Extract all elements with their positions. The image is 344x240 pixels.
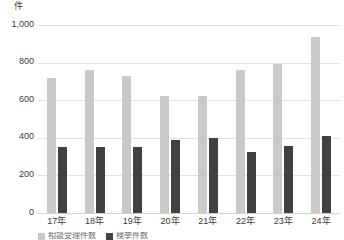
bar-series-1: [322, 136, 331, 213]
x-tick-label: 17年: [38, 215, 76, 229]
bar-series-0: [198, 96, 207, 214]
bar-series-1: [58, 147, 67, 213]
legend-swatch-icon: [38, 233, 45, 240]
y-tick-label: 600: [0, 95, 34, 104]
y-axis: 1,000 800 600 400 200 0: [0, 25, 34, 213]
bar-series-0: [236, 70, 245, 213]
bar-chart: 件 1,000 800 600 400 200 0: [0, 0, 344, 240]
bar-group: [189, 25, 227, 213]
bar-group: [151, 25, 189, 213]
plot-area: [38, 25, 340, 213]
legend-label: 相談受理件数: [48, 232, 96, 240]
legend-item: 相談受理件数: [38, 232, 96, 240]
x-axis: 17年 18年 19年 20年 21年 22年 23年 24年: [38, 215, 340, 229]
bar-series-0: [311, 37, 320, 213]
x-tick-label: 19年: [114, 215, 152, 229]
x-tick-label: 18年: [76, 215, 114, 229]
x-tick-label: 20年: [151, 215, 189, 229]
bar-series-1: [284, 146, 293, 213]
y-axis-unit-label: 件: [14, 1, 23, 11]
bar-group-container: [38, 25, 340, 213]
legend-swatch-icon: [106, 233, 113, 240]
bar-group: [76, 25, 114, 213]
x-tick-label: 24年: [302, 215, 340, 229]
bar-group: [302, 25, 340, 213]
y-tick-label: 400: [0, 132, 34, 141]
bar-group: [38, 25, 76, 213]
x-tick-label: 22年: [227, 215, 265, 229]
x-tick-label: 21年: [189, 215, 227, 229]
bar-series-1: [209, 138, 218, 213]
bar-series-1: [247, 152, 256, 213]
y-tick-label: 200: [0, 170, 34, 179]
bar-series-1: [96, 147, 105, 213]
bar-series-0: [273, 64, 282, 213]
chart-legend: 相談受理件数 検挙件数: [38, 232, 340, 240]
x-tick-label: 23年: [265, 215, 303, 229]
bar-group: [265, 25, 303, 213]
bar-series-0: [160, 96, 169, 214]
legend-label: 検挙件数: [116, 232, 148, 240]
y-tick-label: 800: [0, 57, 34, 66]
bar-series-0: [122, 76, 131, 213]
bar-group: [227, 25, 265, 213]
bar-series-0: [47, 78, 56, 213]
y-tick-label: 0: [0, 208, 34, 217]
gridline-0: [38, 213, 340, 214]
legend-item: 検挙件数: [106, 232, 148, 240]
bar-series-1: [171, 140, 180, 213]
bar-group: [114, 25, 152, 213]
y-tick-label: 1,000: [0, 20, 34, 29]
bar-series-1: [133, 147, 142, 213]
bar-series-0: [85, 70, 94, 213]
